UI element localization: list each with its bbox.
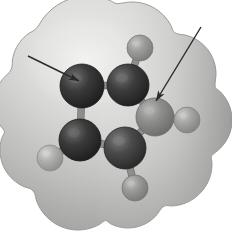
molecular-figure (0, 0, 232, 237)
atom-carbon-upper-middle (107, 64, 149, 106)
atom-carbon-lower-middle (104, 127, 146, 169)
atom-hydrogen-lower-left (37, 145, 63, 171)
atom-hydrogen-right (174, 107, 200, 133)
atom-carbon-upper-left (60, 64, 104, 108)
atom-carbon-lower-left (59, 119, 101, 161)
molecule-diagram (0, 0, 232, 237)
atom-hydrogen-top (127, 35, 153, 61)
atom-highlighted-atom-right (136, 98, 174, 136)
atom-hydrogen-bottom (122, 175, 148, 201)
